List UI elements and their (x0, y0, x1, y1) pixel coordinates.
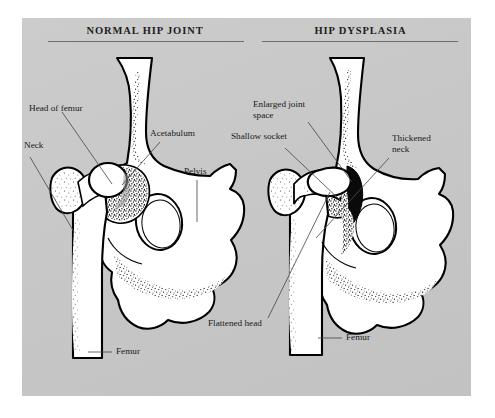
label-shallow-socket: Shallow socket (231, 131, 287, 142)
label-head-of-femur: Head of femur (29, 103, 83, 114)
panel-heading-normal: NORMAL HIP JOINT (40, 25, 250, 36)
figure-root: NORMAL HIP JOINT HIP DYSPLASIA Head of f… (0, 0, 495, 418)
label-acetabulum: Acetabulum (150, 128, 195, 139)
label-neck: Neck (24, 140, 43, 151)
label-thickened-neck: Thickened neck (392, 133, 431, 155)
normal-femoral-head (89, 163, 127, 197)
label-pelvis: Pelvis (184, 166, 206, 177)
panel-heading-dysplasia: HIP DYSPLASIA (258, 25, 463, 36)
label-femur-right: Femur (346, 332, 370, 343)
heading-rule-left (48, 41, 244, 42)
label-flattened-head: Flattened head (208, 318, 262, 329)
anatomy-drawing (0, 0, 495, 418)
label-femur-left: Femur (116, 346, 140, 357)
label-enlarged-joint-space: Enlarged joint space (253, 99, 305, 121)
heading-rule-right (262, 41, 458, 42)
